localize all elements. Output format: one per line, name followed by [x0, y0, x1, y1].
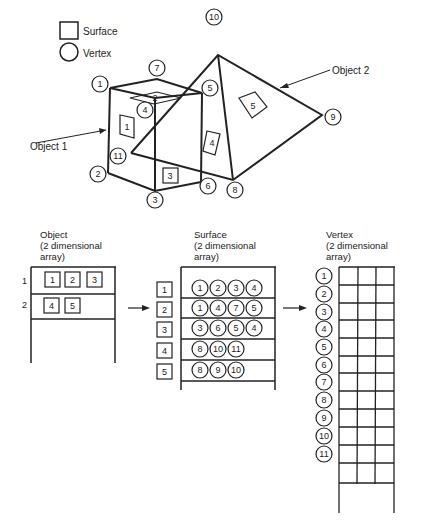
- svg-text:5: 5: [70, 301, 75, 311]
- svg-text:2: 2: [321, 289, 326, 299]
- object-array: Object (2 dimensional array) 1 2 1 2 3 4…: [22, 229, 116, 363]
- svg-text:6: 6: [321, 360, 326, 370]
- svg-text:5: 5: [162, 367, 167, 377]
- diagram-canvas: Surface Vertex Object 1 Object 2 1 2 3 4…: [0, 0, 422, 522]
- svg-text:1: 1: [197, 283, 202, 293]
- svg-text:4: 4: [49, 301, 54, 311]
- svg-text:Vertex: Vertex: [326, 229, 353, 240]
- svg-text:5: 5: [321, 342, 326, 352]
- svg-text:4: 4: [321, 324, 326, 334]
- svg-text:(2 dimensional: (2 dimensional: [194, 240, 256, 251]
- svg-text:2: 2: [162, 305, 167, 315]
- arrow-surface-to-vertex: [283, 305, 307, 311]
- legend-surface-label: Surface: [83, 26, 118, 37]
- svg-text:9: 9: [330, 112, 335, 122]
- svg-text:7: 7: [321, 377, 326, 387]
- svg-text:4: 4: [251, 323, 256, 333]
- svg-text:11: 11: [113, 151, 122, 161]
- svg-text:(2 dimensional: (2 dimensional: [326, 240, 388, 251]
- svg-text:2: 2: [95, 169, 100, 179]
- svg-text:5: 5: [251, 303, 256, 313]
- svg-text:2: 2: [22, 300, 27, 310]
- svg-text:(2 dimensional: (2 dimensional: [40, 240, 102, 251]
- svg-text:array): array): [194, 251, 219, 262]
- svg-text:3: 3: [321, 307, 326, 317]
- svg-text:9: 9: [321, 413, 326, 423]
- svg-text:8: 8: [232, 185, 237, 195]
- svg-text:10: 10: [209, 12, 219, 22]
- svg-text:11: 11: [231, 344, 240, 354]
- svg-text:array): array): [40, 251, 65, 262]
- svg-text:Object: Object: [40, 229, 68, 240]
- svg-text:4: 4: [142, 105, 147, 115]
- svg-text:8: 8: [197, 365, 202, 375]
- svg-text:1: 1: [321, 271, 326, 281]
- legend-surface-icon: [60, 22, 78, 39]
- svg-text:1: 1: [124, 122, 129, 132]
- svg-text:1: 1: [197, 303, 202, 313]
- svg-text:4: 4: [215, 303, 220, 313]
- svg-text:5: 5: [250, 101, 255, 111]
- object2-label: Object 2: [332, 65, 370, 76]
- legend-vertex-icon: [60, 43, 78, 61]
- svg-text:7: 7: [233, 303, 238, 313]
- svg-text:4: 4: [162, 346, 167, 356]
- svg-text:6: 6: [205, 181, 210, 191]
- vertex-array: Vertex (2 dimensional array): [316, 229, 395, 513]
- svg-text:3: 3: [233, 283, 238, 293]
- svg-text:1: 1: [50, 275, 55, 285]
- object1-label: Object 1: [30, 141, 68, 152]
- svg-text:6: 6: [215, 323, 220, 333]
- svg-text:11: 11: [319, 449, 328, 459]
- surface-array: Surface (2 dimensional array) 1 2 3 4 5: [157, 229, 276, 390]
- svg-text:5: 5: [233, 323, 238, 333]
- svg-text:2: 2: [215, 283, 220, 293]
- svg-text:Surface: Surface: [194, 229, 227, 240]
- svg-text:3: 3: [162, 325, 167, 335]
- legend-vertex-label: Vertex: [83, 48, 111, 59]
- svg-text:2: 2: [152, 93, 157, 103]
- svg-text:5: 5: [207, 83, 212, 93]
- svg-text:3: 3: [197, 323, 202, 333]
- svg-text:7: 7: [154, 63, 159, 73]
- svg-text:10: 10: [231, 365, 241, 375]
- svg-text:4: 4: [251, 283, 256, 293]
- svg-text:8: 8: [321, 395, 326, 405]
- arrow-object-to-surface: [128, 305, 150, 311]
- svg-text:9: 9: [215, 365, 220, 375]
- svg-text:3: 3: [92, 275, 97, 285]
- svg-text:3: 3: [167, 171, 172, 181]
- svg-text:8: 8: [197, 344, 202, 354]
- scene-vertex-markers: [90, 9, 341, 208]
- svg-text:1: 1: [97, 79, 102, 89]
- svg-text:1: 1: [22, 276, 27, 286]
- svg-text:3: 3: [152, 195, 157, 205]
- svg-text:10: 10: [319, 431, 329, 441]
- svg-text:array): array): [326, 251, 351, 262]
- svg-text:10: 10: [213, 344, 223, 354]
- svg-text:2: 2: [70, 275, 75, 285]
- svg-text:4: 4: [209, 138, 214, 148]
- svg-text:1: 1: [162, 285, 167, 295]
